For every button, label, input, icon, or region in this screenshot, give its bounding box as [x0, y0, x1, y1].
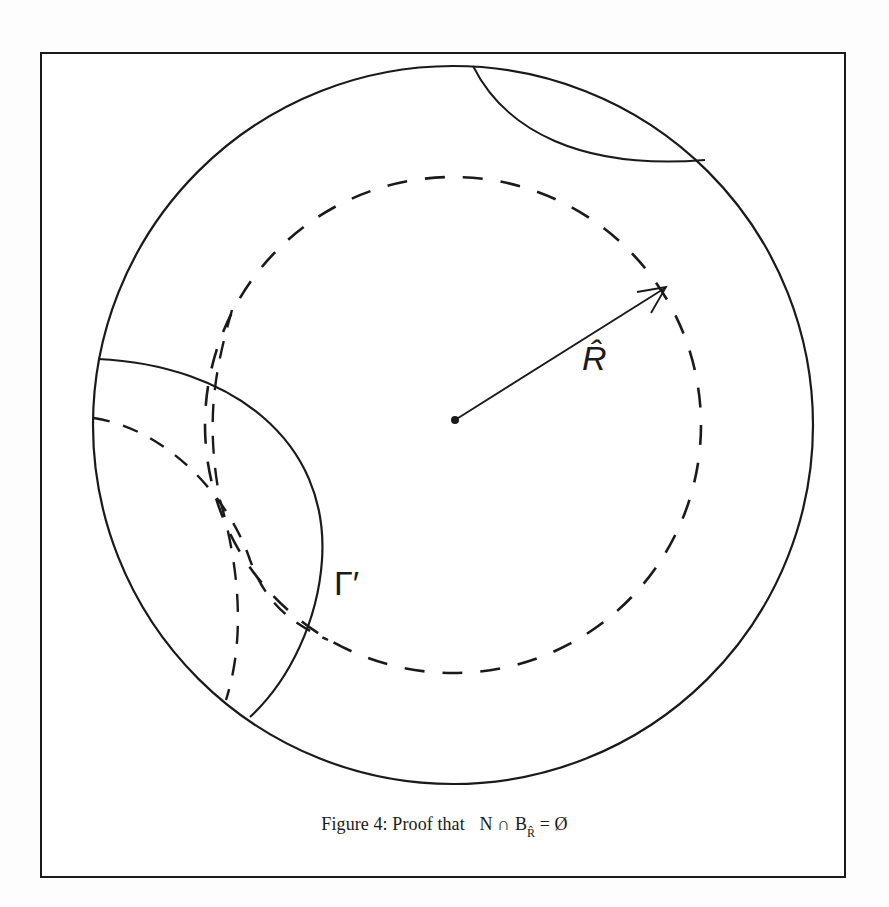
gamma-prime-label: Γ′ [334, 564, 359, 602]
gamma-prime-arc [98, 359, 322, 717]
caption-equals-empty: = Ø [540, 814, 568, 834]
radius-arrow-line [455, 288, 665, 420]
caption-subscript-r-hat: R̂ [527, 826, 535, 840]
outer-circle [93, 66, 813, 784]
top-right-arc [473, 66, 705, 162]
figure-diagram: R̂ Γ′ [0, 0, 889, 907]
caption-math: N ∩ BR̂ = Ø [479, 814, 567, 834]
caption-prefix: Figure 4: Proof that [321, 814, 465, 834]
radius-label: R̂ [582, 339, 607, 377]
dashed-circle-b-r-hat [205, 177, 701, 673]
caption-n: N [479, 814, 492, 834]
caption-intersection-symbol: ∩ [497, 814, 510, 834]
figure-caption: Figure 4: Proof that N ∩ BR̂ = Ø [0, 814, 889, 839]
caption-b: B [515, 814, 527, 834]
vertical-dashed-arc [213, 310, 238, 700]
